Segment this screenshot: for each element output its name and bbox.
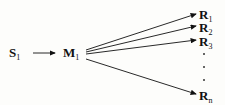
species-s1: S1 xyxy=(9,46,20,64)
species-r3: R3 xyxy=(199,35,212,53)
arrow-m1-to-r1 xyxy=(86,14,196,50)
arrow-m1-to-r3 xyxy=(86,40,196,54)
arrows-layer xyxy=(0,0,225,105)
ellipsis-dot xyxy=(203,66,205,68)
arrow-m1-to-r2 xyxy=(86,26,196,52)
arrow-m1-to-rn xyxy=(86,59,196,94)
species-m1: M1 xyxy=(63,46,79,64)
species-rn: Rn xyxy=(199,89,212,105)
ellipsis-dot xyxy=(203,79,205,81)
reaction-scheme-diagram: S1 M1 R1 R2 R3 Rn xyxy=(0,0,225,105)
ellipsis-dot xyxy=(203,53,205,55)
